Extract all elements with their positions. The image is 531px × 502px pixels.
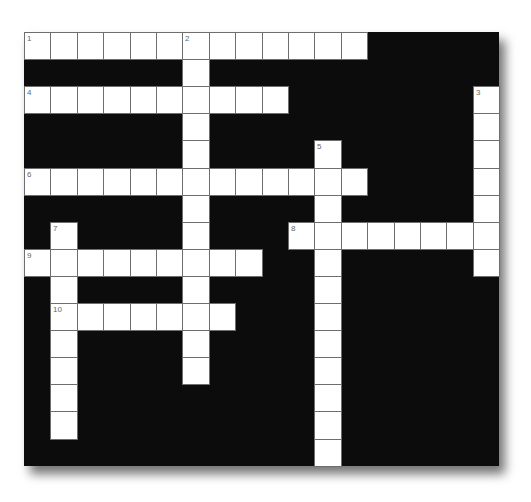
- grid-cell[interactable]: [209, 168, 236, 196]
- grid-cell[interactable]: [50, 384, 78, 412]
- grid-cell[interactable]: [314, 168, 342, 196]
- grid-cell[interactable]: [314, 357, 342, 385]
- grid-cell[interactable]: [182, 357, 210, 385]
- grid-cell[interactable]: [473, 113, 500, 141]
- grid-cell[interactable]: [262, 168, 289, 196]
- grid-cell[interactable]: [341, 32, 368, 60]
- grid-cell[interactable]: [103, 86, 131, 114]
- grid-cell[interactable]: [50, 357, 78, 385]
- crossword-grid: 12345671089: [24, 32, 499, 466]
- grid-cell[interactable]: [103, 32, 131, 60]
- grid-cell[interactable]: [182, 276, 210, 304]
- clue-number: 3: [476, 88, 480, 97]
- grid-cell[interactable]: [288, 32, 315, 60]
- grid-cell[interactable]: [314, 195, 342, 223]
- clue-number: 8: [291, 224, 295, 233]
- grid-cell[interactable]: [473, 195, 500, 223]
- grid-cell[interactable]: [156, 168, 183, 196]
- grid-cell[interactable]: 3: [473, 86, 500, 114]
- grid-cell[interactable]: [314, 32, 342, 60]
- grid-cell[interactable]: [130, 86, 157, 114]
- grid-cell[interactable]: [50, 86, 78, 114]
- grid-cell[interactable]: [182, 330, 210, 358]
- grid-cell[interactable]: [209, 32, 236, 60]
- grid-cell[interactable]: [130, 168, 157, 196]
- grid-cell[interactable]: [314, 330, 342, 358]
- grid-cell[interactable]: [341, 222, 368, 250]
- grid-cell[interactable]: [156, 86, 183, 114]
- grid-cell[interactable]: 8: [288, 222, 315, 250]
- grid-cell[interactable]: [314, 384, 342, 412]
- grid-cell[interactable]: [235, 249, 263, 277]
- grid-cell[interactable]: [314, 303, 342, 331]
- grid-cell[interactable]: [50, 168, 78, 196]
- grid-cell[interactable]: 9: [24, 249, 51, 277]
- grid-cell[interactable]: [50, 249, 78, 277]
- clue-number: 4: [27, 88, 31, 97]
- grid-cell[interactable]: [50, 330, 78, 358]
- clue-number: 6: [27, 170, 31, 179]
- grid-cell[interactable]: [209, 303, 236, 331]
- grid-cell[interactable]: [182, 303, 210, 331]
- grid-cell[interactable]: [314, 276, 342, 304]
- grid-cell[interactable]: [473, 168, 500, 196]
- grid-cell[interactable]: [367, 222, 395, 250]
- grid-cell[interactable]: [209, 86, 236, 114]
- grid-cell[interactable]: 1: [24, 32, 51, 60]
- grid-cell[interactable]: [182, 168, 210, 196]
- grid-cell[interactable]: [77, 303, 104, 331]
- grid-cell[interactable]: [156, 249, 183, 277]
- grid-cell[interactable]: [156, 303, 183, 331]
- grid-cell[interactable]: [50, 32, 78, 60]
- grid-cell[interactable]: [77, 32, 104, 60]
- grid-cell[interactable]: [262, 32, 289, 60]
- grid-cell[interactable]: [235, 32, 263, 60]
- grid-cell[interactable]: [50, 411, 78, 440]
- grid-cell[interactable]: [182, 113, 210, 141]
- grid-cell[interactable]: [182, 86, 210, 114]
- grid-cell[interactable]: [103, 303, 131, 331]
- grid-cell[interactable]: 7: [50, 222, 78, 250]
- clue-number: 1: [27, 34, 31, 43]
- grid-cell[interactable]: [182, 249, 210, 277]
- clue-number: 7: [53, 224, 57, 233]
- grid-cell[interactable]: [341, 168, 368, 196]
- grid-cell[interactable]: [50, 276, 78, 304]
- grid-cell[interactable]: [130, 32, 157, 60]
- grid-cell[interactable]: [77, 249, 104, 277]
- grid-cell[interactable]: [77, 168, 104, 196]
- grid-cell[interactable]: 6: [24, 168, 51, 196]
- grid-cell[interactable]: [235, 86, 263, 114]
- grid-cell[interactable]: [288, 168, 315, 196]
- grid-cell[interactable]: [420, 222, 447, 250]
- grid-cell[interactable]: [77, 86, 104, 114]
- grid-cell[interactable]: 2: [182, 32, 210, 60]
- grid-cell[interactable]: [235, 168, 263, 196]
- grid-cell[interactable]: [314, 222, 342, 250]
- grid-cell[interactable]: [314, 411, 342, 440]
- grid-cell[interactable]: [314, 249, 342, 277]
- grid-cell[interactable]: [103, 168, 131, 196]
- grid-cell[interactable]: [103, 249, 131, 277]
- grid-cell[interactable]: [130, 249, 157, 277]
- clue-number: 5: [317, 142, 321, 151]
- grid-cell[interactable]: [262, 86, 289, 114]
- grid-cell[interactable]: [156, 32, 183, 60]
- grid-cell[interactable]: 5: [314, 140, 342, 169]
- clue-number: 9: [27, 251, 31, 260]
- grid-cell[interactable]: [209, 249, 236, 277]
- grid-cell[interactable]: 10: [50, 303, 78, 331]
- grid-cell[interactable]: [394, 222, 421, 250]
- grid-cell[interactable]: [446, 222, 474, 250]
- grid-cell[interactable]: 4: [24, 86, 51, 114]
- grid-cell[interactable]: [130, 303, 157, 331]
- grid-cell[interactable]: [182, 195, 210, 223]
- grid-cell[interactable]: [182, 59, 210, 87]
- clue-number: 10: [53, 305, 62, 314]
- grid-cell[interactable]: [182, 140, 210, 169]
- grid-cell[interactable]: [314, 439, 342, 467]
- grid-cell[interactable]: [473, 222, 500, 250]
- grid-cell[interactable]: [182, 222, 210, 250]
- grid-cell[interactable]: [473, 249, 500, 277]
- grid-cell[interactable]: [473, 140, 500, 169]
